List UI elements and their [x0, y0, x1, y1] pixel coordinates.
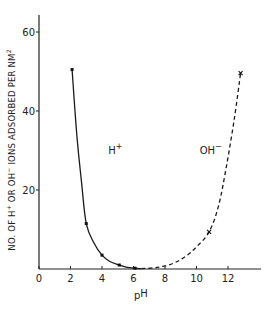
series-group — [72, 70, 241, 269]
chart: 024681012 204060 pH NO. OF H+ OR OH− ION… — [0, 0, 274, 310]
data-point-h — [101, 254, 104, 257]
y-label-part3: IONS ADSORBED PER NM — [7, 53, 17, 167]
data-point-h — [85, 222, 88, 225]
y-tick-label: 60 — [22, 27, 35, 38]
y-ticks: 204060 — [22, 27, 39, 196]
axes — [39, 15, 261, 269]
x-axis-label: pH — [134, 288, 148, 301]
y-tick-label: 40 — [22, 106, 35, 117]
series-line-h — [72, 70, 141, 269]
y-label-part2: OR OH — [7, 173, 17, 205]
y-axis-label: NO. OF H+ OR OH− IONS ADSORBED PER NM2 — [5, 49, 17, 250]
x-tick-label: 8 — [162, 273, 168, 284]
data-point-h — [71, 68, 74, 71]
x-tick-label: 0 — [36, 273, 42, 284]
data-point-oh — [207, 230, 211, 234]
annotations-group: H+OH− — [108, 142, 221, 156]
svg-text:NO. OF H+ OR OH− IONS ADSORBED: NO. OF H+ OR OH− IONS ADSORBED PER NM2 — [5, 49, 17, 250]
markers-group — [71, 68, 243, 270]
x-tick-label: 10 — [190, 273, 203, 284]
x-tick-label: 6 — [130, 273, 136, 284]
y-tick-label: 20 — [22, 185, 35, 196]
annotation-h: H+ — [108, 142, 122, 156]
x-tick-label: 4 — [99, 273, 105, 284]
x-axis-label-h: H — [140, 288, 148, 299]
y-label-sup3: 2 — [5, 49, 12, 53]
y-label-part1: NO. OF H — [7, 210, 17, 250]
x-tick-label: 12 — [222, 273, 235, 284]
annotation-oh: OH− — [200, 142, 222, 156]
data-point-h — [118, 264, 121, 267]
series-line-oh — [141, 73, 240, 269]
data-point-h — [134, 267, 137, 270]
x-tick-label: 2 — [67, 273, 73, 284]
